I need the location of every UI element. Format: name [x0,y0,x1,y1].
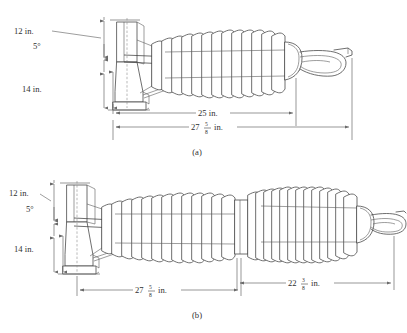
dimension-label-12in-a: 12 in. [14,26,34,36]
dimension-14in-b: 14 in. [14,236,63,272]
dimension-label-27-den-a: 8 [205,129,208,135]
engineering-drawing-figure: 12 in. 5° 14 in. 25 in. [0,0,407,333]
dimension-label-22-whole-b: 22 [288,278,297,288]
panel-caption-a: (a) [192,147,202,157]
panel-a: 12 in. 5° 14 in. 25 in. [14,17,352,157]
dimension-12in-a: 12 in. [14,17,104,57]
dimension-5deg-b: 5° [26,204,54,236]
dimension-label-14in-b: 14 in. [14,244,34,254]
terminal-clamp-b [371,211,406,234]
insulator-assembly-a [113,18,352,110]
dimension-label-27-den-b: 8 [149,292,152,298]
dimension-label-25in-a: 25 in. [198,108,218,118]
dimension-label-5deg-b: 5° [26,204,34,214]
shed-stack-1-b [102,193,235,263]
dimension-label-27-unit-b: in. [158,285,167,295]
shed-stack-2-b [248,187,357,263]
dimension-5deg-a: 5° [33,41,104,72]
dimension-label-27-num-b: 5 [149,284,152,290]
mid-coupling-b [235,200,248,254]
dimension-27-5-8in-b: 27 5 8 in. [80,282,238,298]
dimension-label-22-unit-b: in. [311,278,320,288]
dimension-label-12in-b: 12 in. [9,188,29,198]
dimension-12in-b: 12 in. [9,180,54,220]
shed-stack-a [152,30,285,98]
base-flange-a [113,18,149,110]
dimension-label-27-unit-a: in. [214,122,223,132]
panel-b: 12 in. 5° 14 in. 22 3 8 [9,180,406,320]
dimension-label-27-num-a: 5 [205,121,208,127]
dimension-22-3-8in-b: 22 3 8 in. [240,275,391,291]
dimension-label-22-num-b: 3 [302,277,305,283]
dimension-label-14in-a: 14 in. [22,84,42,94]
dimension-label-27-whole-b: 27 [135,285,144,295]
terminal-clamp-a [300,48,352,76]
base-flange-b [63,181,99,274]
terminal-fitting-a [285,42,302,80]
dimension-label-27-whole-a: 27 [191,122,200,132]
dimension-14in-a: 14 in. [22,72,113,108]
dimension-27-5-8in-a: 27 5 8 in. [116,119,349,135]
dimension-label-5deg-a: 5° [33,41,41,51]
terminal-fitting-b [357,206,374,243]
dimension-label-22-den-b: 8 [302,285,305,291]
insulator-assembly-b [63,181,406,274]
panel-caption-b: (b) [192,310,202,320]
